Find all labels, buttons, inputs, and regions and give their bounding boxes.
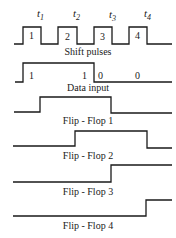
time-marker-t3: t3 — [109, 8, 116, 23]
data-input-label: Data input — [67, 82, 109, 93]
signal-flip-flop-4: Flip - Flop 4 — [13, 200, 172, 231]
time-marker-t2: t2 — [73, 7, 80, 22]
pulse-label-2: 2 — [65, 31, 70, 42]
timing-diagram: t1 t2 t3 t4 1 2 3 4 Shift pulses 1 1 0 0… — [0, 0, 176, 238]
pulse-label-3: 3 — [100, 31, 105, 42]
signal-shift-pulses: 1 2 3 4 Shift pulses — [14, 27, 172, 57]
pulse-label-1: 1 — [29, 30, 34, 41]
data-bit-3: 0 — [98, 70, 103, 81]
data-bit-4: 0 — [135, 70, 140, 81]
flip-flop-2-label: Flip - Flop 2 — [63, 150, 113, 161]
data-input-waveform — [15, 63, 172, 82]
shift-pulses-label: Shift pulses — [65, 46, 112, 57]
flip-flop-4-label: Flip - Flop 4 — [63, 220, 113, 231]
time-markers: t1 t2 t3 t4 — [37, 7, 151, 23]
data-bit-1: 1 — [29, 70, 34, 81]
flip-flop-4-waveform — [13, 200, 172, 216]
flip-flop-3-label: Flip - Flop 3 — [63, 186, 113, 197]
signal-flip-flop-1: Flip - Flop 1 — [14, 97, 172, 126]
signal-flip-flop-2: Flip - Flop 2 — [13, 131, 172, 161]
signal-data-input: 1 1 0 0 Data input — [15, 63, 172, 93]
pulse-label-4: 4 — [135, 30, 140, 41]
signal-flip-flop-3: Flip - Flop 3 — [13, 165, 172, 197]
flip-flop-2-waveform — [13, 131, 172, 148]
shift-pulses-waveform — [14, 27, 172, 44]
time-marker-t4: t4 — [144, 7, 151, 22]
data-bit-2: 1 — [82, 70, 87, 81]
flip-flop-1-waveform — [14, 97, 172, 113]
flip-flop-1-label: Flip - Flop 1 — [63, 115, 113, 126]
time-marker-t1: t1 — [37, 7, 44, 22]
flip-flop-3-waveform — [13, 165, 172, 182]
